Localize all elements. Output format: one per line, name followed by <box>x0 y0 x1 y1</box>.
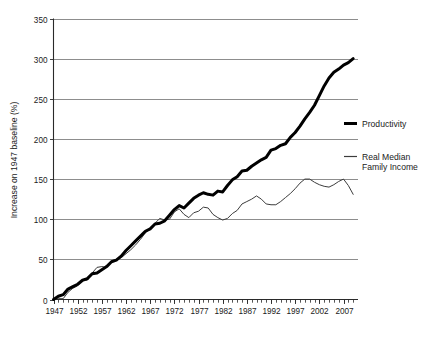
x-tick-label-2002: 2002 <box>310 307 329 316</box>
y-tick-label-200: 200 <box>34 136 48 145</box>
x-tick-label-1947: 1947 <box>45 307 64 316</box>
legend-label-income-line1: Real Median <box>362 152 410 162</box>
y-tick-label-0: 0 <box>43 297 48 306</box>
x-tick-label-1997: 1997 <box>286 307 305 316</box>
y-tick-label-150: 150 <box>34 176 48 185</box>
legend-label-income-line2: Family Income <box>362 162 418 172</box>
y-tick-label-100: 100 <box>34 216 48 225</box>
y-tick-label-250: 250 <box>34 96 48 105</box>
y-tick-label-50: 50 <box>38 256 48 265</box>
x-tick-label-1957: 1957 <box>93 307 112 316</box>
productivity-vs-income-line-chart: 050100150200250300350 194719521957196219… <box>0 0 427 338</box>
x-tick-label-1952: 1952 <box>69 307 88 316</box>
x-tick-label-1972: 1972 <box>165 307 184 316</box>
x-tick-label-1992: 1992 <box>262 307 281 316</box>
x-tick-label-1967: 1967 <box>141 307 160 316</box>
x-tick-label-2007: 2007 <box>335 307 354 316</box>
y-tick-label-300: 300 <box>34 56 48 65</box>
y-axis-title: Increase on 1947 baseline (%) <box>9 102 19 219</box>
chart-container: 050100150200250300350 194719521957196219… <box>0 0 427 338</box>
x-tick-label-1982: 1982 <box>214 307 233 316</box>
y-tick-label-350: 350 <box>34 16 48 25</box>
x-tick-label-1962: 1962 <box>117 307 136 316</box>
x-tick-label-1977: 1977 <box>190 307 209 316</box>
x-tick-label-1987: 1987 <box>238 307 257 316</box>
legend-label-productivity: Productivity <box>362 119 407 129</box>
